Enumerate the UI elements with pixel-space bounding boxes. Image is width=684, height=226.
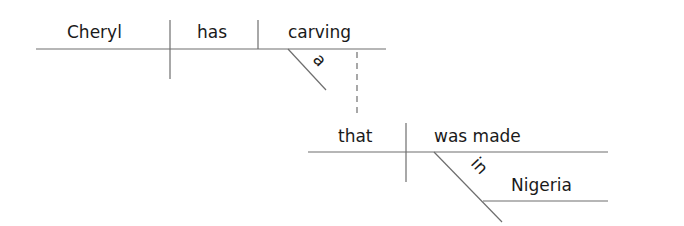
word-relative-subject: that [338,126,373,146]
word-verb: has [197,22,227,42]
word-direct-object: carving [288,22,351,42]
word-modifier-a: a [309,49,331,70]
word-preposition: in [467,153,492,178]
sentence-diagram: Cheryl has carving a that was made in Ni… [0,0,684,226]
word-preposition-object: Nigeria [511,175,572,195]
word-relative-verb: was made [434,126,521,146]
word-subject: Cheryl [67,22,122,42]
